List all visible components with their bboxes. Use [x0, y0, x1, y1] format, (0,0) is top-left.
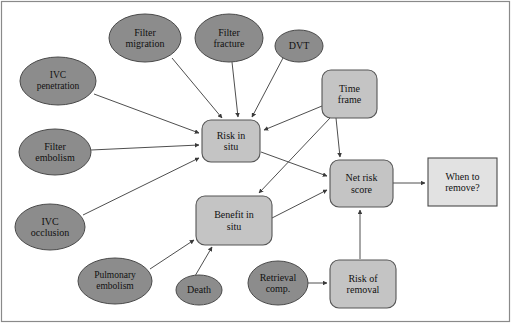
node-ivc_penetration[interactable] — [20, 57, 96, 105]
node-ivc_occlusion[interactable] — [15, 204, 85, 250]
edge-time_frame-to-net_risk_score — [336, 118, 340, 157]
edge-filter_embolism-to-risk_in_situ — [91, 145, 199, 150]
node-pulmonary_embolism[interactable] — [78, 258, 152, 304]
node-when_to_remove[interactable] — [428, 158, 497, 206]
edge-filter_migration-to-risk_in_situ — [172, 58, 222, 118]
node-risk_in_situ[interactable] — [202, 120, 260, 162]
nodes-layer — [15, 14, 497, 308]
edge-pulmonary_embolism-to-benefit_in_situ — [150, 240, 194, 269]
node-filter_migration[interactable] — [109, 14, 181, 62]
edge-ivc_penetration-to-risk_in_situ — [94, 94, 199, 133]
node-dvt[interactable] — [275, 30, 323, 62]
node-benefit_in_situ[interactable] — [196, 196, 272, 245]
node-filter_embolism[interactable] — [19, 129, 91, 175]
edge-time_frame-to-risk_in_situ — [264, 106, 322, 130]
edge-filter_fracture-to-risk_in_situ — [232, 62, 238, 117]
edge-dvt-to-risk_in_situ — [252, 58, 283, 117]
edge-benefit_in_situ-to-net_risk_score — [272, 190, 327, 218]
node-risk_of_removal[interactable] — [330, 260, 396, 308]
node-net_risk_score[interactable] — [330, 160, 393, 207]
node-time_frame[interactable] — [322, 70, 377, 118]
diagram-canvas — [0, 0, 511, 323]
node-filter_fracture[interactable] — [195, 14, 263, 62]
node-death[interactable] — [176, 275, 222, 305]
influence-diagram: Filter migrationFilter fractureDVTIVC pe… — [0, 0, 511, 323]
edge-death-to-benefit_in_situ — [195, 247, 212, 276]
edge-ivc_occlusion-to-risk_in_situ — [83, 158, 199, 215]
node-retrieval_comp[interactable] — [248, 261, 308, 305]
